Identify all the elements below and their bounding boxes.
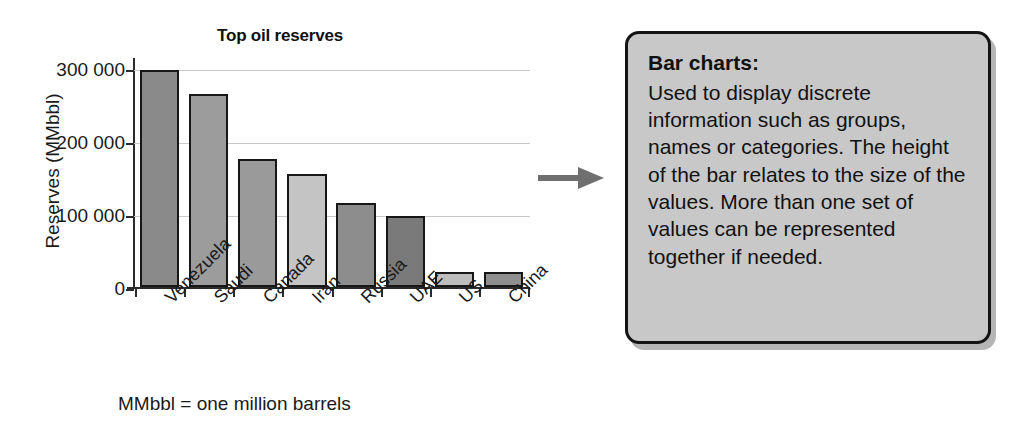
y-axis-tick <box>126 70 134 72</box>
y-axis-tick-label: 300 000 <box>56 59 125 81</box>
arrow-right-icon <box>538 164 608 192</box>
callout-box: Bar charts: Used to display discrete inf… <box>625 31 991 344</box>
y-axis-tick-label: 200 000 <box>56 132 125 154</box>
chart-footnote: MMbbl = one million barrels <box>118 393 351 415</box>
y-axis-tick-label: 0 <box>114 278 125 300</box>
bar-series <box>135 61 528 287</box>
x-axis-labels: VenezuelaSaudiCanadaIranRussiaUAEUSChina <box>133 293 553 383</box>
bar-russia <box>336 203 375 287</box>
y-axis-tick <box>126 143 134 145</box>
bar-venezuela <box>140 70 179 287</box>
callout-heading: Bar charts: <box>648 50 968 77</box>
chart-block: Top oil reserves Reserves (MMbbl) 0100 0… <box>0 0 560 438</box>
bar-chart-figure: Top oil reserves Reserves (MMbbl) 0100 0… <box>0 0 1012 438</box>
y-axis-tick <box>126 216 134 218</box>
plot-area: 0100 000200 000300 000 <box>133 63 530 289</box>
y-axis-title: Reserves (MMbbl) <box>42 56 64 286</box>
callout-body: Used to display discrete information suc… <box>648 79 968 270</box>
chart-title: Top oil reserves <box>150 26 410 46</box>
y-axis-tick-label: 100 000 <box>56 205 125 227</box>
